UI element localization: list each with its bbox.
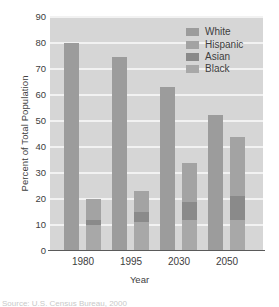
bar-white-1995[interactable] [112, 57, 127, 251]
bar-white-1980[interactable] [64, 43, 79, 251]
legend-item-black[interactable]: Black [186, 63, 243, 75]
x-axis-title: Year [0, 274, 279, 285]
bar-minority-stack-1995[interactable] [134, 191, 149, 251]
legend-item-white[interactable]: White [186, 26, 243, 38]
legend-label: Hispanic [205, 40, 243, 50]
bar-group-1995 [112, 17, 150, 251]
bar-group-1980 [64, 17, 102, 251]
x-tick-2050: 2050 [197, 256, 257, 267]
segment-asian-1995 [134, 212, 149, 222]
legend-item-hispanic[interactable]: Hispanic [186, 38, 243, 50]
legend-item-asian[interactable]: Asian [186, 51, 243, 63]
y-tick-30: 30 [35, 168, 46, 178]
segment-asian-2030 [182, 202, 197, 220]
y-tick-70: 70 [35, 64, 46, 74]
x-axis-line [48, 250, 265, 251]
segment-hispanic-1995 [134, 191, 149, 212]
segment-hispanic-2050 [230, 137, 245, 197]
segment-black-1995 [134, 222, 149, 251]
segment-asian-2050 [230, 196, 245, 219]
chart-legend: WhiteHispanicAsianBlack [186, 26, 243, 76]
segment-asian-1980 [86, 220, 101, 225]
population-bar-chart: Percent of Total Population 010203040506… [0, 0, 279, 307]
segment-hispanic-1980 [86, 199, 101, 220]
legend-swatch-white-icon [186, 28, 199, 36]
segment-black-2050 [230, 220, 245, 251]
legend-swatch-asian-icon [186, 53, 199, 61]
y-tick-50: 50 [35, 116, 46, 126]
legend-label: White [205, 27, 231, 37]
y-tick-10: 10 [35, 220, 46, 230]
y-axis-tick-labels: 0102030405060708090 [20, 17, 46, 251]
figure-caption: Source: U.S. Census Bureau, 2000 [2, 299, 272, 307]
segment-black-2030 [182, 220, 197, 251]
y-tick-40: 40 [35, 142, 46, 152]
bar-minority-stack-1980[interactable] [86, 199, 101, 251]
legend-swatch-black-icon [186, 65, 199, 73]
y-tick-60: 60 [35, 90, 46, 100]
bar-minority-stack-2030[interactable] [182, 163, 197, 251]
y-tick-90: 90 [35, 12, 46, 22]
legend-swatch-hispanic-icon [186, 41, 199, 49]
y-tick-0: 0 [41, 246, 46, 256]
segment-hispanic-2030 [182, 163, 197, 202]
y-tick-20: 20 [35, 194, 46, 204]
legend-label: Black [205, 64, 229, 74]
bar-white-2030[interactable] [160, 87, 175, 251]
bar-minority-stack-2050[interactable] [230, 137, 245, 251]
y-tick-80: 80 [35, 38, 46, 48]
segment-black-1980 [86, 225, 101, 251]
legend-label: Asian [205, 52, 230, 62]
bar-white-2050[interactable] [208, 115, 223, 252]
